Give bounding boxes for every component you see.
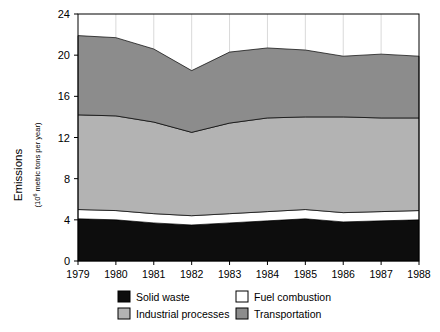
y-tick-label: 8 [64,173,70,185]
y-tick-label: 16 [58,90,70,102]
emissions-stacked-area-chart: Emissions (106 metric tons per year) 048… [0,0,440,332]
legend-swatch [118,291,130,302]
x-tick-label: 1986 [332,268,356,280]
x-tick-label: 1981 [142,268,166,280]
legend-label: Solid waste [136,291,190,303]
x-tick-label: 1985 [294,268,318,280]
area-series-group [78,36,419,261]
legend-label: Transportation [254,308,321,320]
x-tick-label: 1987 [369,268,393,280]
legend-swatch [236,291,248,302]
x-tick-label: 1983 [218,268,242,280]
y-axis-subtitle-prefix: (10 [33,197,42,208]
y-tick-label: 12 [58,132,70,144]
y-tick-label: 24 [58,8,70,20]
y-axis-title: Emissions [12,149,24,202]
y-tick-label: 4 [64,214,70,226]
legend-label: Fuel combustion [254,291,331,303]
y-axis-subtitle-suffix: metric tons per year) [33,122,42,193]
y-tick-label: 20 [58,49,70,61]
x-tick-label: 1982 [180,268,204,280]
x-tick-label: 1984 [256,268,280,280]
plot-area: 04812162024 1979198019811982198319841985… [58,8,431,280]
legend-swatch [118,308,130,319]
y-tick-label: 0 [64,255,70,267]
legend-swatch [236,308,248,319]
area-series-solid-waste [78,219,419,261]
legend-label: Industrial processes [136,308,229,320]
area-series-industrial-processes [78,115,419,216]
x-tick-label: 1979 [66,268,90,280]
x-tick-label: 1980 [104,268,128,280]
legend-item: Solid waste [118,291,190,303]
x-tick-label: 1988 [407,268,431,280]
